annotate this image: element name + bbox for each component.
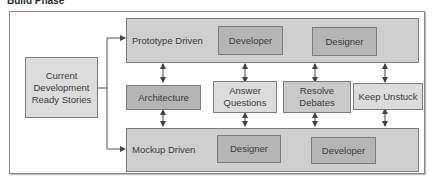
mockup-step-developer: Developer xyxy=(311,137,376,164)
activity-architecture: Architecture xyxy=(126,85,201,110)
prototype-step-developer: Developer xyxy=(218,26,283,55)
activity-label-line-2: Debates xyxy=(299,97,334,109)
prototype-step-designer: Designer xyxy=(312,27,377,56)
source-box-current-development-ready-stories: Current Development Ready Stories xyxy=(25,57,98,118)
mockup-driven-label: Mockup Driven xyxy=(132,144,195,156)
activity-answer-questions: Answer Questions xyxy=(213,81,277,113)
mockup-step-designer: Designer xyxy=(217,135,281,163)
activity-keep-unstuck: Keep Unstuck xyxy=(353,83,423,110)
activity-label-line-1: Answer xyxy=(229,85,261,97)
activity-resolve-debates: Resolve Debates xyxy=(283,81,351,113)
arrow-to-prototype xyxy=(98,38,125,88)
activity-label-line-2: Questions xyxy=(224,97,267,109)
step-label: Developer xyxy=(229,35,272,47)
source-line-1: Current xyxy=(46,70,78,82)
arrow-to-mockup xyxy=(107,88,125,149)
source-line-3: Ready Stories xyxy=(32,94,92,106)
step-label: Designer xyxy=(325,36,363,48)
activity-label: Keep Unstuck xyxy=(358,91,417,103)
prototype-driven-label: Prototype Driven xyxy=(132,35,203,47)
activity-label: Architecture xyxy=(138,92,189,104)
activity-label-line-1: Resolve xyxy=(300,85,334,97)
source-line-2: Development xyxy=(34,82,90,94)
step-label: Developer xyxy=(322,145,365,157)
step-label: Designer xyxy=(230,143,268,155)
